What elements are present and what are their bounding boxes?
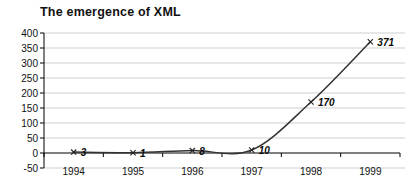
y-tick-label: 0 — [32, 148, 38, 159]
xml-emergence-line-chart: 400350300250200150100500-501994199519961… — [0, 0, 418, 186]
y-tick-label: 350 — [21, 43, 38, 54]
x-tick-label: 1997 — [241, 166, 264, 177]
x-tick-label: 1994 — [63, 166, 86, 177]
y-tick-label: 200 — [21, 88, 38, 99]
y-tick-label: 50 — [27, 133, 39, 144]
y-tick-label: 300 — [21, 58, 38, 69]
x-tick-label: 1998 — [300, 166, 323, 177]
x-tick-label: 1996 — [181, 166, 204, 177]
y-tick-label: 150 — [21, 103, 38, 114]
data-point-label: 170 — [318, 97, 335, 108]
y-tick-label: 400 — [21, 28, 38, 39]
data-point-label: 1 — [140, 148, 146, 159]
chart-container: The emergence of XML 4003503002502001501… — [0, 0, 418, 186]
x-tick-label: 1999 — [359, 166, 382, 177]
data-point-label: 371 — [377, 37, 394, 48]
y-tick-label: -50 — [24, 163, 39, 174]
x-tick-label: 1995 — [122, 166, 145, 177]
data-point-label: 10 — [259, 145, 271, 156]
data-point-label: 3 — [81, 147, 87, 158]
y-tick-label: 250 — [21, 73, 38, 84]
data-point-label: 8 — [199, 146, 205, 157]
y-tick-label: 100 — [21, 118, 38, 129]
